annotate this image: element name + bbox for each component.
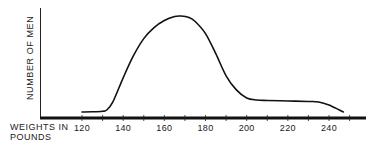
- x-tick-label-200: 200: [239, 123, 255, 133]
- x-tick-label-120: 120: [74, 123, 90, 133]
- x-axis-label-line-2: POUNDS: [10, 132, 69, 142]
- x-axis-label: WEIGHTS IN POUNDS: [10, 122, 69, 142]
- x-tick-label-220: 220: [280, 123, 296, 133]
- x-tick-label-180: 180: [198, 123, 214, 133]
- x-axis-label-line-1: WEIGHTS IN: [10, 122, 69, 132]
- x-tick-label-140: 140: [115, 123, 131, 133]
- x-tick-label-240: 240: [321, 123, 337, 133]
- x-tick-label-160: 160: [156, 123, 172, 133]
- y-axis-label: NUMBER OF MEN: [25, 16, 35, 100]
- distribution-curve: [82, 16, 343, 112]
